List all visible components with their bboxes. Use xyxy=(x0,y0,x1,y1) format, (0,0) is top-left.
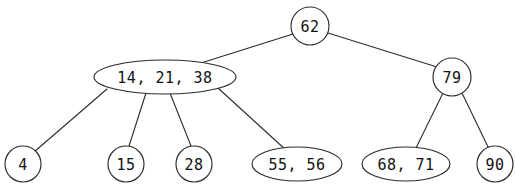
btree-diagram: 6214, 21, 38794152855, 5668, 7190 xyxy=(0,0,516,195)
tree-edge-internal-left-to-leaf-55-56 xyxy=(218,88,287,151)
tree-node-leaf-28[interactable]: 28 xyxy=(176,146,212,182)
btree-canvas: 6214, 21, 38794152855, 5668, 7190 xyxy=(0,0,516,195)
tree-edge-internal-left-to-leaf-4 xyxy=(34,89,107,152)
node-label-leaf-4: 4 xyxy=(18,156,28,174)
tree-edge-root-to-internal-right xyxy=(328,33,437,67)
tree-node-leaf-55-56[interactable]: 55, 56 xyxy=(252,147,342,181)
tree-edge-internal-left-to-leaf-15 xyxy=(129,93,146,146)
tree-node-leaf-68-71[interactable]: 68, 71 xyxy=(362,147,450,181)
node-label-leaf-68-71: 68, 71 xyxy=(377,156,434,174)
tree-edge-internal-left-to-leaf-28 xyxy=(170,93,191,146)
node-label-leaf-55-56: 55, 56 xyxy=(268,156,325,174)
node-label-root: 62 xyxy=(300,18,319,36)
tree-edge-root-to-internal-left xyxy=(201,34,293,63)
nodes-layer: 6214, 21, 38794152855, 5668, 7190 xyxy=(5,7,513,182)
tree-node-leaf-15[interactable]: 15 xyxy=(108,146,144,182)
tree-node-internal-left[interactable]: 14, 21, 38 xyxy=(94,60,236,94)
node-label-leaf-15: 15 xyxy=(116,156,135,174)
node-label-internal-right: 79 xyxy=(442,69,461,87)
node-label-leaf-28: 28 xyxy=(184,156,203,174)
edges-layer xyxy=(34,33,489,152)
tree-edge-internal-right-to-leaf-90 xyxy=(462,93,489,149)
tree-edge-internal-right-to-leaf-68-71 xyxy=(415,93,443,150)
tree-node-root[interactable]: 62 xyxy=(291,7,329,45)
node-label-internal-left: 14, 21, 38 xyxy=(117,69,212,87)
tree-node-internal-right[interactable]: 79 xyxy=(433,58,471,96)
tree-node-leaf-90[interactable]: 90 xyxy=(477,146,513,182)
tree-node-leaf-4[interactable]: 4 xyxy=(5,146,41,182)
node-label-leaf-90: 90 xyxy=(485,156,504,174)
